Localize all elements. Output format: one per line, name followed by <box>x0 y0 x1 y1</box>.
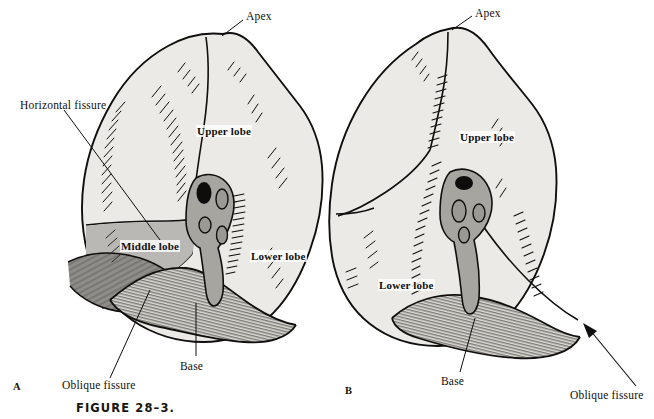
label-middle-lobe-a: Middle lobe <box>120 240 180 252</box>
label-lower-lobe-b: Lower lobe <box>378 279 435 291</box>
panel-letter-b: B <box>345 385 352 396</box>
label-base-a: Base <box>180 360 203 372</box>
label-upper-lobe-b: Upper lobe <box>459 131 515 143</box>
pulmonary-vein-upper-b <box>473 204 485 222</box>
label-lower-lobe-a: Lower lobe <box>250 250 307 262</box>
panel-letter-a: A <box>13 381 21 392</box>
label-apex-a: Apex <box>246 10 272 22</box>
label-horizontal-fissure: Horizontal fissure <box>20 99 106 111</box>
pulmonary-vein-upper-a <box>199 217 211 233</box>
pulmonary-artery-b <box>452 200 466 222</box>
oblique-fissure-arrow-b <box>583 323 636 386</box>
label-upper-lobe-a: Upper lobe <box>196 125 252 137</box>
bronchus-a <box>197 182 212 204</box>
pulmonary-artery-a <box>216 189 228 209</box>
label-oblique-fissure-a: Oblique fissure <box>62 379 136 391</box>
panel-a-right-lung <box>60 20 323 378</box>
lung-anatomy-illustration <box>0 0 654 419</box>
pulmonary-vein-lower-b <box>459 227 470 243</box>
label-base-b: Base <box>441 375 464 387</box>
label-oblique-fissure-b: Oblique fissure <box>570 389 644 401</box>
figure-caption: FIGURE 28–3. <box>76 401 175 415</box>
pulmonary-vein-lower-a <box>217 226 228 244</box>
figure-page: Apex Horizontal fissure Upper lobe Middl… <box>0 0 654 419</box>
bronchus-b <box>455 176 473 190</box>
panel-b-left-lung <box>329 16 636 386</box>
label-apex-b: Apex <box>475 7 501 19</box>
